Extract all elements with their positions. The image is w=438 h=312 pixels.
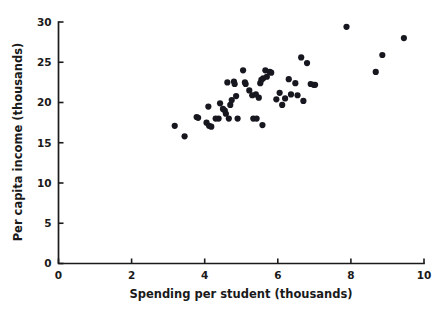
scatter-point — [208, 124, 214, 130]
scatter-point — [254, 116, 260, 122]
scatter-point — [268, 70, 274, 76]
scatter-point — [273, 96, 279, 102]
scatter-point — [277, 90, 283, 96]
scatter-point — [279, 102, 285, 108]
scatter-point — [379, 52, 385, 58]
y-tick-label: 0 — [44, 257, 51, 269]
scatter-point — [243, 81, 249, 87]
x-tick-label: 4 — [201, 269, 208, 281]
x-tick-label: 2 — [128, 269, 135, 281]
scatter-point — [259, 122, 265, 128]
scatter-point — [298, 54, 304, 60]
scatter-point — [235, 116, 241, 122]
y-tick-label: 30 — [37, 16, 52, 28]
scatter-point — [217, 100, 223, 106]
scatter-point — [286, 76, 292, 82]
scatter-point — [288, 91, 294, 97]
y-tick-label: 15 — [37, 137, 52, 149]
y-tick-label: 20 — [37, 96, 52, 108]
x-tick-label: 6 — [274, 269, 281, 281]
x-axis-title: Spending per student (thousands) — [129, 287, 352, 301]
x-tick-label: 10 — [417, 269, 432, 281]
scatter-point — [232, 81, 238, 87]
y-tick-label: 5 — [44, 217, 51, 229]
scatter-point — [172, 123, 178, 129]
scatter-point — [304, 60, 310, 66]
scatter-point — [300, 98, 306, 104]
scatter-point — [182, 133, 188, 139]
y-tick-label: 25 — [37, 56, 52, 68]
axis-spine-path — [59, 22, 425, 264]
scatter-point — [233, 93, 239, 99]
x-tick-label: 8 — [347, 269, 354, 281]
x-axis-tick-labels: 0246810 — [55, 269, 431, 281]
scatter-point — [294, 92, 300, 98]
plot-canvas: 051015202530 0246810 Spending per studen… — [0, 0, 438, 312]
scatter-point — [343, 24, 349, 30]
scatter-point — [373, 69, 379, 75]
scatter-point — [312, 82, 318, 88]
scatter-point — [256, 95, 262, 101]
scatter-point — [282, 95, 288, 101]
scatter-point — [195, 115, 201, 121]
scatter-point — [401, 35, 407, 41]
axis-spines — [59, 22, 425, 264]
scatter-point — [224, 79, 230, 85]
y-axis-tick-labels: 051015202530 — [37, 16, 52, 269]
scatter-points-group — [172, 24, 407, 140]
scatter-plot-figure: 051015202530 0246810 Spending per studen… — [0, 0, 438, 312]
y-axis-title: Per capita income (thousands) — [11, 43, 25, 242]
scatter-point — [240, 67, 246, 73]
y-tick-label: 10 — [37, 177, 52, 189]
scatter-point — [292, 80, 298, 86]
scatter-point — [215, 116, 221, 122]
scatter-point — [205, 103, 211, 109]
scatter-point — [226, 116, 232, 122]
x-tick-label: 0 — [55, 269, 62, 281]
